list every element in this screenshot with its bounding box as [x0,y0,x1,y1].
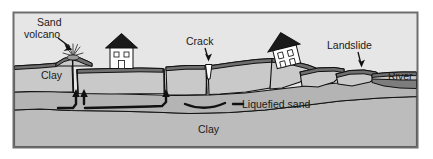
upright-house-door [119,61,125,69]
label-crack: Crack [186,35,214,47]
upright-house-window-left [114,52,119,57]
label-sand-volcano-line2: volcano [24,28,60,40]
fissure-graben-left [77,70,78,94]
figure-root: Sand volcano Clay Crack Landslide River … [0,0,433,159]
tilted-house-window-right [287,50,293,57]
upright-house-window-right [124,52,129,57]
label-landslide: Landslide [327,39,372,51]
label-clay-upper: Clay [41,69,63,81]
label-sand-volcano-line1: Sand [37,16,62,28]
fissure-graben-right [164,69,165,95]
tilted-house-door-left [280,61,286,68]
tilted-house-window-left [278,52,284,59]
liquefaction-cross-section-diagram: Sand volcano Clay Crack Landslide River … [0,0,433,159]
label-liquefied-sand: Liquefied sand [242,98,310,110]
label-river: River [388,70,413,82]
label-clay-lower: Clay [198,123,220,135]
sand-volcano-cone [67,55,79,60]
tilted-house-door-right [289,58,295,65]
fissure-left [73,57,74,93]
